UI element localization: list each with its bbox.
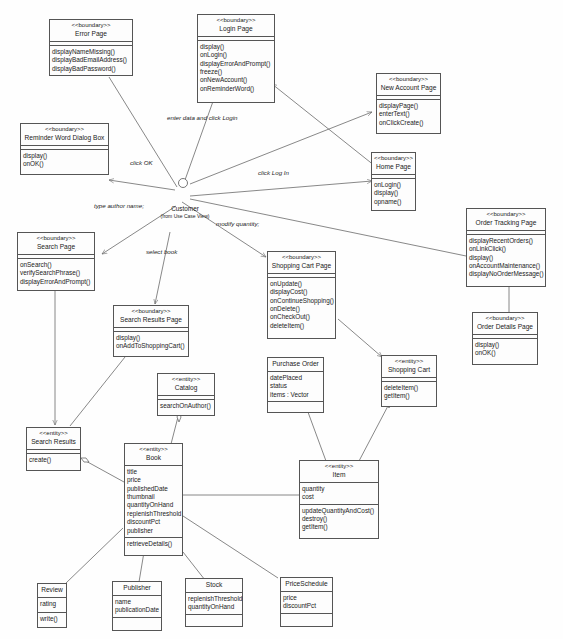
attributes-compartment: replenishThreshold quantityOnHand — [186, 593, 242, 615]
attributes-compartment: price discountPct — [281, 592, 332, 614]
stereotype: <<boundary>> — [469, 211, 543, 219]
attribute: cost — [302, 493, 376, 501]
class-name: Order Tracking Page — [469, 219, 543, 228]
attribute: publicationDate — [115, 606, 159, 614]
operation: enterText() — [379, 110, 438, 118]
stereotype: <<boundary>> — [374, 155, 413, 163]
operation: onLogin() — [200, 51, 272, 59]
operation: onClickCreate() — [379, 119, 438, 127]
operations-compartment — [113, 618, 161, 630]
operation: onNewAccount() — [200, 76, 272, 84]
attribute: name — [115, 598, 159, 606]
attribute: datePlaced — [270, 374, 321, 382]
class-name: Publisher — [115, 584, 159, 593]
operation: deleteItem() — [270, 322, 333, 330]
operations-compartment: write() — [38, 613, 66, 626]
stereotype: <<boundary>> — [475, 315, 535, 323]
attributes-compartment: quantity cost — [300, 483, 378, 505]
class-name: Review — [40, 586, 64, 595]
operation: freeze() — [200, 68, 272, 76]
attributes-compartment: title price publishedDate thumbnail quan… — [125, 466, 182, 539]
operation: getItem() — [302, 523, 376, 531]
operation: displayRecentOrders() — [469, 237, 543, 245]
label-select-book: select book — [146, 248, 177, 255]
attribute: replenishThreshold — [188, 595, 240, 603]
attribute: discountPct — [283, 602, 330, 610]
stereotype: <<boundary>> — [379, 76, 438, 84]
operation: displayNoOrderMessage() — [469, 270, 543, 278]
stereotype: <<entity>> — [384, 358, 434, 366]
class-reminder-word-dialog[interactable]: <<boundary>>Reminder Word Dialog Box dis… — [20, 123, 109, 175]
class-shopping-cart-page[interactable]: <<boundary>>Shopping Cart Page onUpdate(… — [267, 251, 336, 339]
attribute: replenishThreshold — [127, 510, 180, 518]
attribute: items : Vector — [270, 391, 321, 399]
class-purchase-order[interactable]: Purchase Order datePlaced status items :… — [267, 357, 324, 413]
operations-compartment: retrieveDetails() — [125, 538, 182, 554]
attributes-compartment: name publicationDate — [113, 596, 161, 618]
class-review[interactable]: Review rating write() — [37, 583, 67, 628]
class-name: Catalog — [160, 384, 212, 393]
operation: onAddToShoppingCart() — [116, 342, 186, 350]
class-name: Shopping Cart Page — [270, 262, 333, 271]
class-new-account-page[interactable]: <<boundary>>New Account Page displayPage… — [376, 73, 441, 134]
class-order-tracking-page[interactable]: <<boundary>>Order Tracking Page displayR… — [466, 208, 546, 287]
operation: onDelete() — [270, 305, 333, 313]
operation: display() — [374, 189, 413, 197]
class-home-page[interactable]: <<boundary>>Home Page onLogin() display(… — [371, 152, 416, 211]
class-search-results[interactable]: <<entity>>Search Results create() — [26, 427, 81, 471]
class-item[interactable]: <<entity>>Item quantity cost updateQuant… — [299, 460, 379, 539]
operation: displayBadPassword() — [52, 65, 130, 73]
operations-compartment: onUpdate() displayCost() onContinueShopp… — [268, 278, 335, 339]
operations-compartment: display() onLogin() displayErrorAndPromp… — [198, 41, 274, 103]
class-diagram: Customer (from Use Case View) enter data… — [0, 0, 563, 639]
class-shopping-cart[interactable]: <<entity>>Shopping Cart deleteItem() get… — [381, 355, 437, 407]
operation: display() — [116, 334, 186, 342]
operation: verifySearchPhrase() — [20, 269, 92, 277]
label-click-log-in: click Log In — [258, 169, 289, 176]
class-name: New Account Page — [379, 84, 438, 93]
class-name: Shopping Cart — [384, 366, 434, 375]
attribute: price — [127, 476, 180, 484]
class-error-page[interactable]: <<boundary>>Error Page displayNameMissin… — [49, 19, 133, 76]
operation: create() — [29, 456, 78, 464]
class-name: Reminder Word Dialog Box — [23, 134, 106, 143]
class-login-page[interactable]: <<boundary>>Login Page display() onLogin… — [197, 14, 275, 103]
operation: displayErrorAndPrompt() — [200, 60, 272, 68]
operations-compartment: display() onAddToShoppingCart() — [114, 332, 188, 356]
attribute: price — [283, 594, 330, 602]
operations-compartment: searchOnAuthor() — [158, 400, 214, 415]
operation: displayNameMissing() — [52, 48, 130, 56]
operations-compartment: display() onOK() — [21, 150, 108, 174]
operation: onUpdate() — [270, 280, 333, 288]
operation: displayBadEmailAddress() — [52, 56, 130, 64]
operation: getItem() — [384, 392, 434, 400]
operations-compartment: display() onOK() — [473, 339, 537, 364]
attribute: publisher — [127, 527, 180, 535]
operation: display() — [200, 43, 272, 51]
class-search-page[interactable]: <<boundary>>Search Page onSearch() verif… — [17, 232, 95, 291]
class-search-results-page[interactable]: <<boundary>>Search Results Page display(… — [113, 305, 189, 357]
operation: deleteItem() — [384, 384, 434, 392]
operation: displayErrorAndPrompt() — [20, 278, 92, 286]
class-price-schedule[interactable]: PriceSchedule price discountPct — [280, 577, 333, 627]
operation: onLogin() — [374, 181, 413, 189]
operations-compartment: updateQuantityAndCost() destroy() getIte… — [300, 505, 378, 538]
operation: updateQuantityAndCost() — [302, 507, 376, 515]
operations-compartment: displayPage() enterText() onClickCreate(… — [377, 100, 440, 133]
class-publisher[interactable]: Publisher name publicationDate — [112, 581, 162, 631]
class-name: Search Results — [29, 438, 78, 447]
class-stock[interactable]: Stock replenishThreshold quantityOnHand — [185, 578, 243, 627]
operation: displayPage() — [379, 102, 438, 110]
class-name: Search Page — [20, 243, 92, 252]
class-order-details-page[interactable]: <<boundary>>Order Details Page display()… — [472, 312, 538, 365]
operation: destroy() — [302, 515, 376, 523]
class-catalog[interactable]: <<entity>>Catalog searchOnAuthor() — [157, 373, 215, 416]
actor-name: Customer — [160, 205, 210, 212]
class-book[interactable]: <<entity>>Book title price publishedDate… — [124, 443, 183, 556]
operation: display() — [469, 254, 543, 262]
stereotype: <<entity>> — [160, 376, 212, 384]
operations-compartment: displayRecentOrders() onLinkClick() disp… — [467, 235, 545, 286]
attribute: thumbnail — [127, 493, 180, 501]
attribute: quantityOnHand — [188, 603, 240, 611]
operation: opname() — [374, 198, 413, 206]
